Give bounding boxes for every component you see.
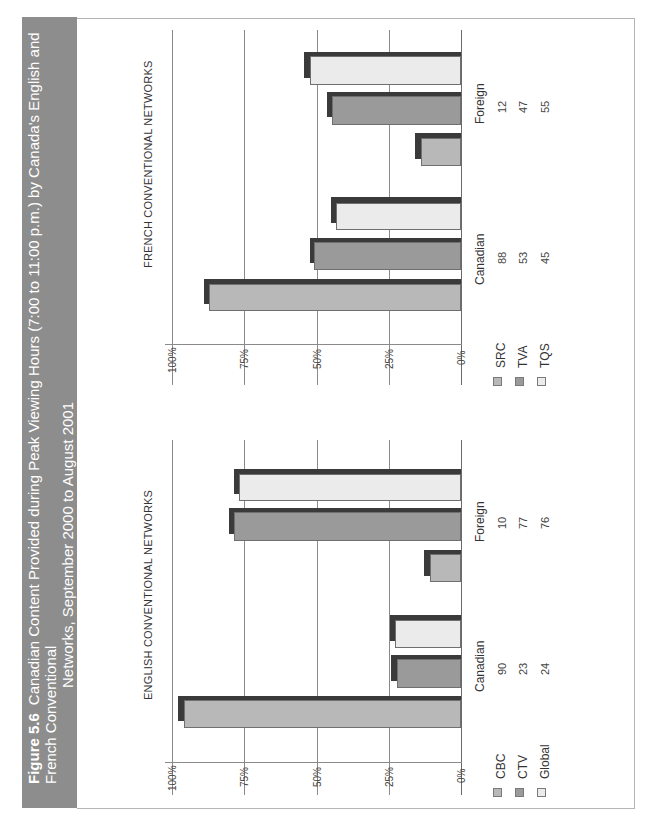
legend-label-global: Global [538, 744, 552, 779]
legend-label-cbc: CBC [494, 754, 508, 779]
tick-50: 50% [312, 349, 323, 369]
english-chart-subtitle: ENGLISH CONVENTIONAL NETWORKS [142, 490, 154, 700]
tick-75: 75% [239, 349, 250, 369]
figure-title-line2: Networks, September 2000 to August 2001 [59, 17, 76, 784]
tick-100: 100% [167, 347, 178, 373]
legend-label-tva: TVA [516, 346, 530, 368]
french-chart-subtitle: FRENCH CONVENTIONAL NETWORKS [142, 61, 154, 268]
bar-global-canadian [395, 620, 461, 648]
figure-title-line1: Canadian Content Provided during Peak Vi… [25, 32, 59, 784]
french-src-foreign-value: 12 [496, 101, 508, 113]
french-tqs-canadian-value: 45 [539, 252, 551, 264]
tick-50: 50% [312, 767, 323, 787]
gridline-100 [172, 30, 173, 385]
tick-100: 100% [167, 765, 178, 791]
tick-25: 25% [384, 767, 395, 787]
tick-75: 75% [239, 767, 250, 787]
french-category-canadian: Canadian [473, 234, 487, 285]
french-tva-canadian-value: 53 [517, 252, 529, 264]
bar-cbc-canadian [184, 700, 461, 728]
french-tva-foreign-value: 47 [517, 101, 529, 113]
bar-ctv-foreign [234, 512, 461, 541]
value-axis [165, 344, 462, 345]
french-src-canadian-value: 88 [496, 252, 508, 264]
figure-title-bar: Figure 5.6Canadian Content Provided duri… [22, 17, 77, 808]
legend-label-src: SRC [494, 343, 508, 368]
figure-number: Figure 5.6 [25, 713, 42, 784]
bar-ctv-canadian [397, 659, 461, 688]
legend-swatch-tva [515, 377, 524, 386]
tick-0: 0% [456, 769, 467, 783]
tick-0: 0% [456, 351, 467, 365]
legend-swatch-cbc [493, 788, 502, 797]
legend-swatch-global [537, 788, 546, 797]
english-cbc-foreign-value: 10 [496, 517, 508, 529]
axis-zero-line [461, 30, 462, 385]
bar-tqs-canadian [336, 203, 461, 230]
english-category-canadian: Canadian [473, 641, 487, 692]
bar-tva-canadian [314, 242, 461, 270]
value-axis [165, 762, 462, 763]
bar-src-canadian [209, 284, 461, 311]
bar-global-foreign [239, 474, 461, 501]
bar-src-foreign [421, 138, 461, 166]
tick-25: 25% [384, 349, 395, 369]
english-cbc-canadian-value: 90 [496, 663, 508, 675]
axis-zero-line [461, 440, 462, 795]
english-ctv-canadian-value: 23 [517, 663, 529, 675]
figure-frame [77, 18, 635, 809]
legend-swatch-ctv [515, 788, 524, 797]
french-tqs-foreign-value: 55 [539, 101, 551, 113]
english-global-canadian-value: 24 [539, 663, 551, 675]
gridline-75 [244, 30, 245, 385]
english-category-foreign: Foreign [473, 501, 487, 542]
legend-swatch-tqs [537, 377, 546, 386]
legend-swatch-src [493, 377, 502, 386]
bar-tva-foreign [332, 96, 461, 125]
legend-label-ctv: CTV [516, 755, 530, 779]
legend-label-tqs: TQS [538, 343, 552, 368]
gridline-100 [172, 440, 173, 795]
english-global-foreign-value: 76 [539, 517, 551, 529]
bar-tqs-foreign [310, 56, 461, 85]
english-ctv-foreign-value: 77 [517, 517, 529, 529]
figure-title: Figure 5.6Canadian Content Provided duri… [22, 17, 77, 808]
bar-cbc-foreign [430, 554, 461, 582]
french-category-foreign: Foreign [473, 83, 487, 124]
